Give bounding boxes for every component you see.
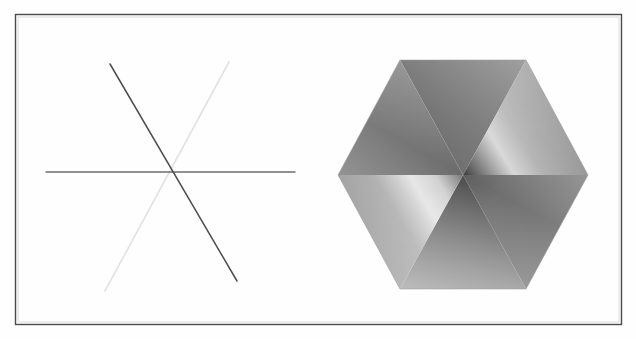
figure-canvas [0,0,636,339]
outer-border-rectangle [16,15,622,325]
outer-border-inner-hairline [18,17,619,322]
outer-border-frame [0,0,636,339]
